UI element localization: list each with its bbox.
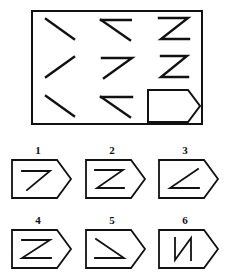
matrix-cell-r1c1: \ xyxy=(31,10,88,48)
option-number-2: 2 xyxy=(82,144,142,156)
option-shape-4 xyxy=(10,228,74,270)
seven-shape-icon xyxy=(99,54,135,80)
option-number-3: 3 xyxy=(155,144,215,156)
matrix-cell-r3c2: < xyxy=(88,87,145,125)
option-shape-2 xyxy=(84,158,148,200)
answer-options: 1 7 2 Σ 3 xyxy=(0,140,235,278)
option-shape-3 xyxy=(157,158,221,200)
option-shape-1 xyxy=(10,158,74,200)
answer-option-6[interactable]: 6 N xyxy=(155,214,229,278)
option-number-5: 5 xyxy=(82,214,142,226)
option-number-1: 1 xyxy=(8,144,68,156)
option-number-6: 6 xyxy=(155,214,215,226)
answer-option-5[interactable]: 5 ↘ xyxy=(82,214,156,278)
z-shape-icon xyxy=(158,53,190,81)
sigma-reverse-z-icon xyxy=(157,15,191,43)
backslash-line-icon xyxy=(43,93,77,119)
option-shape-5 xyxy=(84,228,148,270)
forward-slash-line-icon xyxy=(43,54,77,80)
matrix-cell-r1c3: Σ xyxy=(146,10,203,48)
answer-option-3[interactable]: 3 ∠ xyxy=(155,144,229,210)
matrix-cell-r1c2: < xyxy=(88,10,145,48)
backslash-line-icon xyxy=(43,16,77,42)
matrix-cell-r3c1: \ xyxy=(31,87,88,125)
missing-pentagon-icon xyxy=(146,88,202,124)
less-than-bracket-icon xyxy=(99,16,135,42)
option-number-4: 4 xyxy=(8,214,68,226)
matrix-cell-r3c3-missing xyxy=(146,87,203,125)
matrix-grid: \ < Σ xyxy=(31,10,203,125)
raven-matrices-puzzle: \ < Σ xyxy=(0,0,235,278)
less-than-bracket-icon xyxy=(99,93,135,119)
option-shape-6 xyxy=(157,228,221,270)
matrix-cell-r2c2: 7 xyxy=(88,48,145,86)
answer-option-1[interactable]: 1 7 xyxy=(8,144,82,210)
matrix-cell-r2c3: Z xyxy=(146,48,203,86)
answer-option-4[interactable]: 4 Z xyxy=(8,214,82,278)
matrix-cell-r2c1: / xyxy=(31,48,88,86)
answer-option-2[interactable]: 2 Σ xyxy=(82,144,156,210)
